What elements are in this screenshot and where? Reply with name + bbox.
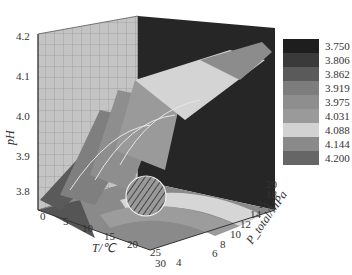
svg-text:0: 0 xyxy=(40,210,46,222)
svg-text:10: 10 xyxy=(82,222,94,234)
legend-item: 3.919 xyxy=(283,81,350,95)
svg-text:20: 20 xyxy=(127,238,139,250)
z-axis-label: pH xyxy=(3,129,17,146)
svg-text:4.2: 4.2 xyxy=(16,30,30,42)
svg-text:5: 5 xyxy=(63,215,69,227)
optimal-region-marker xyxy=(126,176,166,216)
svg-text:6: 6 xyxy=(212,247,218,259)
legend-item: 3.975 xyxy=(283,95,350,109)
legend-item: 3.862 xyxy=(283,67,350,81)
legend-item: 3.806 xyxy=(283,53,350,67)
legend-item: 3.750 xyxy=(283,39,350,53)
svg-text:20: 20 xyxy=(266,178,278,190)
z-ticks: 4.2 4.1 4.0 3.9 3.8 xyxy=(16,30,30,197)
svg-text:30: 30 xyxy=(155,257,167,269)
x-axis-label: T/℃ xyxy=(92,241,117,255)
legend: 3.750 3.806 3.862 3.919 3.975 4.031 4.08… xyxy=(283,39,350,165)
svg-text:3.9: 3.9 xyxy=(16,150,30,162)
legend-item: 4.200 xyxy=(283,151,350,165)
svg-text:4.0: 4.0 xyxy=(16,110,30,122)
svg-text:4.1: 4.1 xyxy=(16,70,30,82)
svg-text:4: 4 xyxy=(176,256,182,268)
svg-text:3.8: 3.8 xyxy=(16,185,30,197)
legend-item: 4.088 xyxy=(283,123,350,137)
legend-item: 4.031 xyxy=(283,109,350,123)
legend-item: 4.144 xyxy=(283,137,350,151)
svg-text:8: 8 xyxy=(220,238,226,250)
